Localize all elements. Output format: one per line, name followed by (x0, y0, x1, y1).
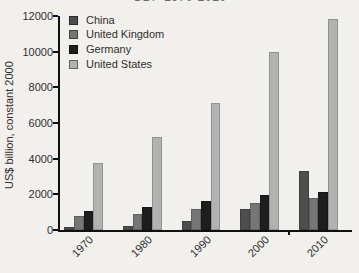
y-tick-8000 (53, 86, 58, 88)
legend-label-united-states: United States (86, 59, 152, 70)
legend-row-germany: Germany (69, 42, 164, 57)
legend-row-united-kingdom: United Kingdom (69, 28, 164, 43)
legend-swatch-united-kingdom (69, 30, 78, 39)
x-tick-label-2010: 2010 (305, 234, 330, 259)
bar-group-1990 (182, 103, 221, 230)
bar-united-kingdom-1990 (191, 209, 201, 230)
legend-swatch-china (69, 16, 78, 25)
x-tick-label-1990: 1990 (188, 234, 213, 259)
y-tick-label-2000: 2000 (29, 188, 53, 200)
bar-united-kingdom-2000 (250, 203, 260, 230)
chart-title: GDP 1970-2010 (0, 0, 359, 4)
legend-label-germany: Germany (86, 44, 131, 55)
bar-united-kingdom-2010 (309, 198, 319, 230)
bar-group-1970 (64, 163, 103, 230)
bar-china-1990 (182, 221, 192, 230)
legend-row-china: China (69, 13, 164, 28)
gdp-bar-chart: GDP 1970-2010 US$ billion, constant 2000… (0, 0, 359, 273)
bar-united-kingdom-1980 (133, 214, 143, 230)
bar-china-2010 (299, 171, 309, 230)
bar-germany-1970 (84, 211, 94, 230)
bar-united-states-1970 (93, 163, 103, 230)
bar-china-1980 (123, 226, 133, 230)
y-tick-12000 (53, 15, 58, 17)
bar-group-1980 (123, 137, 162, 230)
bar-united-states-1980 (152, 137, 162, 230)
legend-swatch-united-states (69, 60, 78, 69)
bar-group-2010 (299, 19, 338, 230)
y-tick-label-8000: 8000 (29, 81, 53, 93)
y-tick-0 (53, 229, 58, 231)
bar-germany-2010 (318, 192, 328, 230)
y-tick-2000 (53, 193, 58, 195)
y-axis-label: US$ billion, constant 2000 (3, 50, 15, 200)
x-tick-label-1980: 1980 (129, 234, 154, 259)
y-tick-label-4000: 4000 (29, 153, 53, 165)
legend-label-united-kingdom: United Kingdom (86, 29, 164, 40)
legend-row-united-states: United States (69, 57, 164, 72)
x-axis-tick (288, 230, 290, 235)
bar-group-2000 (240, 52, 279, 230)
bar-united-states-2000 (269, 52, 279, 230)
bar-united-kingdom-1970 (74, 216, 84, 230)
legend-label-china: China (86, 15, 115, 26)
y-tick-label-12000: 12000 (22, 10, 53, 22)
y-tick-10000 (53, 51, 58, 53)
y-tick-label-0: 0 (47, 224, 53, 236)
y-tick-4000 (53, 158, 58, 160)
x-tick-label-2000: 2000 (246, 234, 271, 259)
bar-china-2000 (240, 209, 250, 230)
y-tick-label-6000: 6000 (29, 117, 53, 129)
bar-germany-1980 (142, 207, 152, 230)
legend-swatch-germany (69, 45, 78, 54)
y-tick-6000 (53, 122, 58, 124)
bar-united-states-2010 (328, 19, 338, 230)
bar-germany-1990 (201, 201, 211, 230)
bar-china-1970 (64, 227, 74, 230)
x-tick-label-1970: 1970 (70, 234, 95, 259)
bar-germany-2000 (260, 195, 270, 230)
legend: ChinaUnited KingdomGermanyUnited States (69, 13, 164, 71)
bar-united-states-1990 (211, 103, 221, 230)
y-tick-label-10000: 10000 (22, 46, 53, 58)
